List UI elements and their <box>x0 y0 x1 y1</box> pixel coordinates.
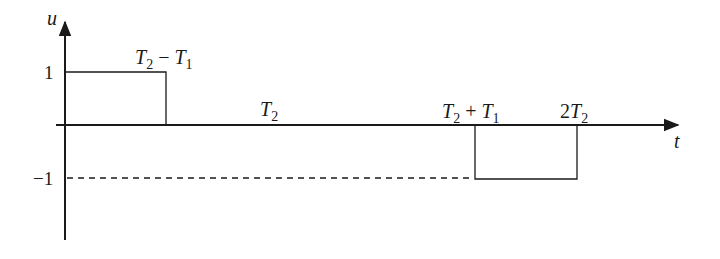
y-axis-label: u <box>47 7 57 29</box>
positive-pulse <box>65 72 166 125</box>
label-2t2: 2T2 <box>560 100 588 126</box>
x-axis-label: t <box>674 130 680 152</box>
label-t2-plus-t1: T2 + T1 <box>442 100 500 126</box>
label-t2-minus-t1: T2 − T1 <box>135 46 193 72</box>
tick-label-minus-1: −1 <box>33 168 53 189</box>
negative-pulse <box>475 125 577 179</box>
signal-diagram: u t 1 −1 T2 − T1 T2 T2 + T1 2T2 <box>0 0 720 259</box>
tick-label-1: 1 <box>44 62 54 83</box>
label-t2: T2 <box>260 98 278 124</box>
